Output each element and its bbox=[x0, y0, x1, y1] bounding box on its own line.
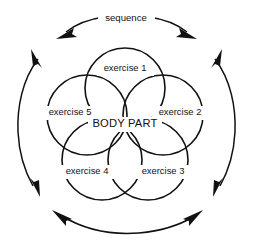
arc-bottom bbox=[52, 210, 203, 233]
arrow-head-top-right bbox=[176, 28, 197, 39]
arrow-head-right-top bbox=[211, 49, 222, 68]
arc-right-segment bbox=[215, 59, 235, 186]
exercise-1-label: exercise 1 bbox=[104, 62, 147, 73]
center-label: BODY PART bbox=[92, 117, 157, 129]
sequence-label: sequence bbox=[105, 12, 147, 23]
arrow-head-left-bottom bbox=[30, 178, 40, 197]
arrow-head-left-top bbox=[31, 49, 42, 68]
exercise-4-label: exercise 4 bbox=[66, 165, 109, 176]
arrow-head-bottom-left bbox=[52, 210, 72, 226]
arrow-head-bottom-right bbox=[183, 210, 203, 226]
diagram-canvas: sequence exercise 1 exercise 5 exercise … bbox=[0, 0, 253, 247]
arc-left-segment bbox=[18, 59, 38, 186]
exercise-2-label: exercise 2 bbox=[159, 106, 202, 117]
arc-left bbox=[18, 49, 42, 197]
arc-bottom-segment bbox=[62, 216, 193, 233]
exercise-5-label: exercise 5 bbox=[49, 106, 92, 117]
arrow-head-top-left bbox=[56, 28, 77, 39]
arrow-head-right-bottom bbox=[213, 178, 223, 197]
exercise-3-label: exercise 3 bbox=[142, 165, 185, 176]
arc-right bbox=[211, 49, 235, 197]
venn-sequence-diagram: sequence exercise 1 exercise 5 exercise … bbox=[0, 0, 253, 247]
